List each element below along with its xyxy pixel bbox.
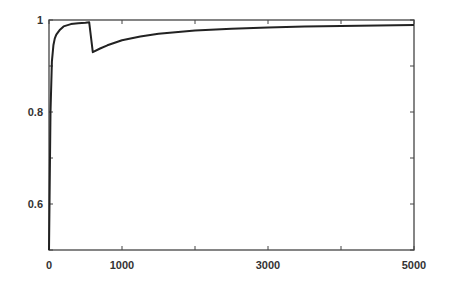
y-tick-label: 0.6 — [28, 198, 43, 210]
x-tick-label: 1000 — [110, 259, 134, 271]
plot-area — [49, 22, 414, 250]
x-axis-ticks: 0100030005000 — [46, 20, 426, 271]
x-tick-label: 0 — [46, 259, 52, 271]
y-tick-label: 1 — [37, 14, 43, 26]
axes-border — [49, 20, 414, 250]
axes-frame — [49, 20, 414, 250]
x-tick-label: 5000 — [402, 259, 426, 271]
x-tick-label: 3000 — [256, 259, 280, 271]
line-chart: 0100030005000 0.60.81 — [0, 0, 449, 285]
y-tick-label: 0.8 — [28, 106, 43, 118]
y-axis-ticks: 0.60.81 — [28, 14, 414, 250]
series-line — [49, 22, 414, 250]
